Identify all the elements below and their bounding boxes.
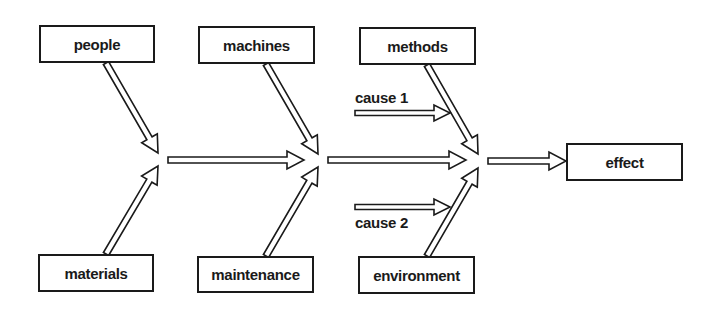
arrow-spine-2: [328, 151, 466, 169]
cause-box-people: people: [39, 25, 155, 63]
arrow-methods: [424, 64, 478, 155]
cause-label-environment: environment: [373, 267, 460, 284]
arrow-to-effect: [488, 152, 566, 170]
arrow-spine-1: [168, 151, 304, 169]
effect-label: effect: [605, 154, 643, 171]
effect-box: effect: [566, 143, 683, 181]
arrow-environment: [424, 168, 478, 258]
cause-label-materials: materials: [64, 265, 127, 282]
cause-label-maintenance: maintenance: [211, 266, 299, 283]
arrow-cause-1: [355, 105, 450, 121]
arrow-maintenance: [263, 167, 318, 258]
sub-cause-label-2: cause 2: [355, 214, 408, 231]
arrow-machines: [263, 63, 318, 155]
cause-label-people: people: [74, 36, 121, 53]
cause-label-methods: methods: [387, 38, 447, 55]
arrow-people: [103, 62, 158, 154]
cause-box-materials: materials: [38, 254, 154, 292]
sub-cause-label-1: cause 1: [355, 89, 408, 106]
cause-box-machines: machines: [198, 26, 315, 64]
arrow-materials: [103, 166, 158, 256]
cause-box-maintenance: maintenance: [197, 256, 314, 293]
fishbone-diagram: people machines methods materials mainte…: [0, 0, 720, 316]
cause-box-environment: environment: [358, 256, 475, 294]
cause-box-methods: methods: [359, 27, 476, 65]
cause-label-machines: machines: [223, 37, 290, 54]
arrow-cause-2: [355, 199, 450, 215]
